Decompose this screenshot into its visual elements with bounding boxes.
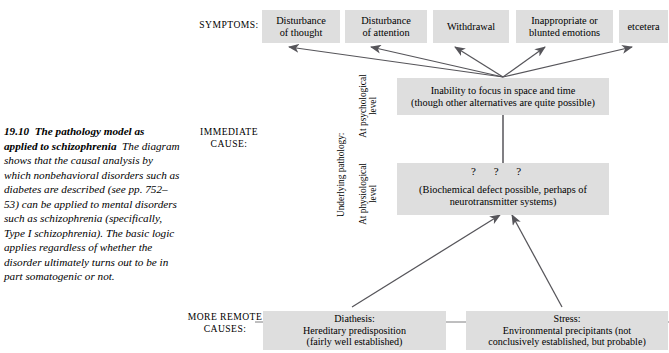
symptom-line1: Disturbance — [361, 15, 411, 26]
remote-cause-box-diathesis: Diathesis: Hereditary predisposition (fa… — [263, 311, 446, 350]
question-marks-label: ? ? ? — [471, 165, 529, 177]
symptom-line2: of thought — [280, 27, 323, 38]
arrows-symptom-fan — [289, 47, 632, 77]
remote-line1: Diathesis: — [334, 313, 374, 324]
physiological-line2: neurotransmitter systems) — [450, 196, 557, 207]
remote-cause-box-stress: Stress: Environmental precipitants (not … — [466, 311, 668, 350]
level-label-psychological: At psychological level — [358, 70, 379, 142]
figure-number: 19.10 — [4, 125, 29, 137]
immediate-cause-psychological-box: Inability to focus in space and time (th… — [397, 78, 609, 115]
symptom-line1: Withdrawal — [447, 21, 495, 32]
remote-line2: Environmental precipitants (not — [503, 325, 631, 336]
symptom-line2: of attention — [362, 27, 409, 38]
row-label-more-remote-line2: CAUSES: — [204, 323, 247, 334]
row-label-more-remote-line1: MORE REMOTE — [188, 311, 263, 322]
symptom-line1: etcetera — [627, 21, 659, 32]
level-label-physiological: At physiological level — [358, 158, 379, 230]
arrows-remote-causes — [352, 215, 562, 307]
remote-line3: (fairly well established) — [307, 336, 403, 347]
brace-label-underlying-pathology: Underlying pathology: — [336, 133, 347, 217]
row-label-more-remote-causes: MORE REMOTE CAUSES: — [177, 311, 273, 334]
symptom-line1: Inappropriate or — [531, 15, 598, 26]
figure-caption-body: The diagram shows that the causal analys… — [4, 140, 180, 283]
level-physiological-line1: At physiological — [358, 163, 368, 225]
physiological-line1: (Biochemical defect possible, perhaps of — [419, 184, 587, 195]
psychological-line2: (though other alternatives are quite pos… — [411, 97, 595, 108]
psychological-line1: Inability to focus in space and time — [431, 85, 576, 96]
symptom-line2: blunted emotions — [529, 27, 600, 38]
row-label-immediate-cause: IMMEDIATE CAUSE: — [186, 126, 272, 149]
row-label-immediate-cause-line1: IMMEDIATE — [200, 126, 258, 137]
symptom-box-etcetera: etcetera — [619, 10, 668, 43]
symptom-box-disturbance-of-attention: Disturbance of attention — [345, 10, 427, 43]
level-psychological-line2: level — [368, 97, 378, 115]
remote-line3: conclusively established, but probable) — [488, 336, 646, 347]
level-psychological-line1: At psychological — [358, 74, 368, 137]
symptom-box-disturbance-of-thought: Disturbance of thought — [262, 10, 340, 43]
remote-line2: Hereditary predisposition — [303, 325, 406, 336]
row-label-symptoms: SYMPTOMS: — [186, 19, 272, 31]
level-physiological-line2: level — [368, 185, 378, 203]
remote-line1: Stress: — [554, 313, 581, 324]
row-label-immediate-cause-line2: CAUSE: — [211, 138, 248, 149]
symptom-box-withdrawal: Withdrawal — [433, 10, 509, 43]
symptom-line1: Disturbance — [276, 15, 326, 26]
figure-caption: 19.10 The pathology model as applied to … — [4, 124, 180, 284]
symptom-box-inappropriate-or-blunted-emotions: Inappropriate or blunted emotions — [516, 10, 613, 43]
figure-diagram: 19.10 The pathology model as applied to … — [0, 0, 669, 353]
